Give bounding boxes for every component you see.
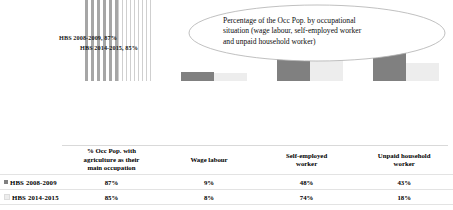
bar-unpaid-household-hbs-2014-2015[interactable] xyxy=(406,63,439,81)
table-corner-cell xyxy=(0,146,63,175)
header-agriculture-line-2: agriculture as their xyxy=(84,156,140,163)
header-unpaid-household-line-2: worker xyxy=(394,160,415,167)
cell-unpaid-household-2008-2009: 43% xyxy=(355,175,453,190)
header-self-employed-line-1: Self-employed xyxy=(286,152,327,159)
callout-line-2: situation (wage labour, self-employed wo… xyxy=(223,26,428,36)
table-header-row: % Occ Pop. with agriculture as their mai… xyxy=(0,146,453,175)
legend-swatch-icon xyxy=(4,180,8,184)
data-label-hbs-2014-2015: HBS 2014-2015, 85% xyxy=(80,44,138,51)
cell-wage-labour-2014-2015: 8% xyxy=(160,190,258,205)
legend-item-hbs-2014-2015[interactable]: HBS 2014-2015 xyxy=(0,190,63,205)
cell-agriculture-2008-2009: 87% xyxy=(63,175,161,190)
callout-ellipse: Percentage of the Occ Pop. by occupation… xyxy=(188,4,446,62)
table-row: HBS 2014-2015 85% 8% 74% 18% xyxy=(0,190,453,205)
bar-agriculture-hbs-2014-2015[interactable] xyxy=(118,0,151,81)
header-agriculture-line-3: main occupation xyxy=(87,164,135,171)
header-unpaid-household-line-1: Unpaid household xyxy=(378,152,431,159)
chart-plot-area: HBS 2008-2009, 87% HBS 2014-2015, 85% Pe… xyxy=(0,0,453,146)
table-header-unpaid-household: Unpaid household worker xyxy=(355,146,453,175)
header-self-employed-line-2: worker xyxy=(296,160,317,167)
callout-line-1: Percentage of the Occ Pop. by occupation… xyxy=(223,16,428,26)
table-header-wage-labour: Wage labour xyxy=(160,146,258,175)
legend-item-hbs-2008-2009[interactable]: HBS 2008-2009 xyxy=(0,175,63,190)
legend-swatch-icon xyxy=(4,194,10,200)
header-agriculture-line-1: % Occ Pop. with xyxy=(87,147,136,154)
table-row: HBS 2008-2009 87% 9% 48% 43% xyxy=(0,175,453,190)
bar-wage-labour-hbs-2008-2009[interactable] xyxy=(181,72,214,81)
cell-agriculture-2014-2015: 85% xyxy=(63,190,161,205)
table-header-agriculture: % Occ Pop. with agriculture as their mai… xyxy=(63,146,161,175)
cell-wage-labour-2008-2009: 9% xyxy=(160,175,258,190)
bar-wage-labour-hbs-2014-2015[interactable] xyxy=(214,73,247,81)
header-wage-labour-line-1: Wage labour xyxy=(190,156,227,163)
chart-data-table: % Occ Pop. with agriculture as their mai… xyxy=(0,146,453,205)
cell-unpaid-household-2014-2015: 18% xyxy=(355,190,453,205)
callout-line-3: and unpaid household worker) xyxy=(223,37,428,47)
data-label-hbs-2008-2009: HBS 2008-2009, 87% xyxy=(59,34,117,41)
cell-self-employed-2008-2009: 48% xyxy=(258,175,356,190)
legend-label-hbs-2008-2009: HBS 2008-2009 xyxy=(10,179,57,186)
cell-self-employed-2014-2015: 74% xyxy=(258,190,356,205)
table-header-self-employed: Self-employed worker xyxy=(258,146,356,175)
legend-label-hbs-2014-2015: HBS 2014-2015 xyxy=(12,194,59,201)
callout-text: Percentage of the Occ Pop. by occupation… xyxy=(223,16,428,47)
